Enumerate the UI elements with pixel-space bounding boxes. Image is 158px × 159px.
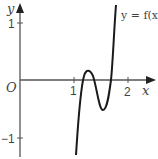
y-tick-1-label: 1 [8,17,15,31]
curve-label: y = f(x) [120,9,158,22]
x-tick-2-label: 2 [124,85,131,99]
y-axis-label: y [6,1,15,16]
graph: y 1 O −1 1 2 x y = f(x) [0,0,158,159]
y-tick-neg1-label: −1 [1,132,15,146]
x-axis-label: x [142,83,150,98]
x-tick-1-label: 1 [70,84,77,98]
y-axis-arrow-icon [16,3,24,13]
origin-label: O [6,80,17,95]
